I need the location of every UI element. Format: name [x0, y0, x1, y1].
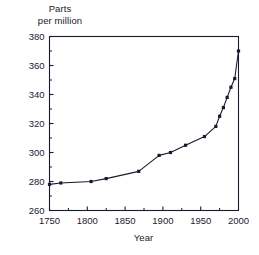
x-axis-ticks: 175018001850190019502000	[39, 207, 249, 226]
svg-text:2000: 2000	[228, 215, 249, 226]
svg-text:1750: 1750	[39, 215, 60, 226]
svg-text:1900: 1900	[152, 215, 173, 226]
chart-plot-area: 260280300320340360380 175018001850190019…	[0, 0, 259, 255]
chart-figure: Parts per million 260280300320340360380 …	[0, 0, 259, 255]
svg-text:320: 320	[29, 118, 45, 129]
plot-frame	[50, 37, 239, 211]
data-point-markers	[48, 49, 240, 186]
svg-text:340: 340	[29, 89, 45, 100]
svg-text:1800: 1800	[77, 215, 98, 226]
svg-text:360: 360	[29, 60, 45, 71]
data-series-line	[50, 51, 239, 184]
svg-text:280: 280	[29, 176, 45, 187]
svg-text:1850: 1850	[115, 215, 136, 226]
svg-text:380: 380	[29, 31, 45, 42]
x-axis-title: Year	[49, 232, 238, 243]
svg-text:300: 300	[29, 147, 45, 158]
svg-text:1950: 1950	[190, 215, 211, 226]
